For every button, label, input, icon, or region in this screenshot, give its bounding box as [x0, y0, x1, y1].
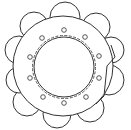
bolt-hole	[97, 76, 102, 81]
bolt-hole	[41, 95, 46, 100]
bolt-hole	[62, 28, 67, 33]
bolt-hole	[28, 76, 33, 81]
diagram-canvas	[0, 0, 131, 130]
bolt-hole	[83, 35, 88, 40]
bolt-hole	[28, 55, 33, 60]
bolt-hole	[62, 101, 67, 106]
bolt-hole	[97, 54, 102, 59]
bolt-hole	[40, 36, 45, 41]
bolt-hole	[84, 95, 89, 100]
flange-diagram	[0, 0, 131, 130]
